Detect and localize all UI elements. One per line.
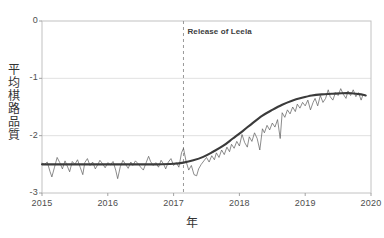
plot-frame-group (42, 21, 371, 193)
gridlines-group (42, 78, 371, 135)
y-tick-label: -3 (18, 187, 38, 197)
x-axis-title: 年 (0, 213, 384, 230)
y-tick-label: 0 (18, 15, 38, 25)
x-tick-label: 2017 (154, 198, 194, 208)
annotation-label: Release of Leela (187, 27, 251, 36)
chart-figure: 0-1-2-3 201520162017201820192020 Release… (0, 0, 384, 238)
x-tick-label: 2018 (219, 198, 259, 208)
x-tick-label: 2020 (351, 198, 384, 208)
x-tick-label: 2016 (88, 198, 128, 208)
axis-ticks-group (39, 21, 371, 196)
x-tick-label: 2019 (285, 198, 325, 208)
plot-border (42, 21, 371, 193)
y-axis-title: 平均棋路品質 (6, 64, 22, 142)
x-tick-label: 2015 (22, 198, 62, 208)
